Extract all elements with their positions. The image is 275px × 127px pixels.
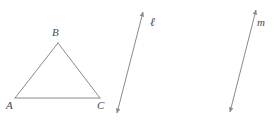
geometry-figure: A B C ℓ m — [0, 0, 275, 127]
vertex-label-c: C — [97, 100, 104, 111]
line-l — [117, 12, 143, 113]
vertex-label-a: A — [6, 100, 13, 111]
line-label-m: m — [257, 17, 265, 28]
triangle-side-ab — [15, 43, 58, 98]
vertex-label-b: B — [52, 27, 59, 38]
figure-canvas — [0, 0, 275, 127]
triangle-side-bc — [58, 43, 100, 98]
line-l-segment — [117, 12, 143, 113]
line-label-l: ℓ — [150, 16, 155, 28]
triangle-abc — [15, 43, 100, 98]
line-m-segment — [230, 10, 256, 112]
line-m — [230, 10, 256, 112]
